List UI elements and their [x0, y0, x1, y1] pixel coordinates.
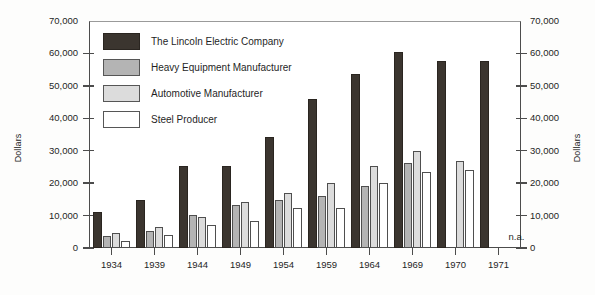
x-tick-label: 1970	[434, 259, 478, 270]
x-tick	[498, 248, 499, 255]
x-tick	[111, 248, 112, 255]
white-swatch	[103, 111, 140, 128]
bar	[250, 221, 259, 248]
y-tick-label-left: 30,000	[49, 145, 78, 156]
y-tick-label-left: 60,000	[49, 47, 78, 58]
bar	[456, 161, 465, 248]
x-tick	[154, 248, 155, 255]
bar	[422, 172, 431, 248]
bar	[327, 183, 336, 248]
bar	[394, 52, 403, 248]
y-tick-label-left: 50,000	[49, 80, 78, 91]
bar	[265, 137, 274, 248]
legend-item-label: The Lincoln Electric Company	[151, 36, 284, 47]
y-tick-label-right: 20,000	[530, 177, 559, 188]
bar	[207, 225, 216, 248]
bar	[222, 166, 231, 248]
bar	[155, 227, 164, 248]
x-tick-label: 1969	[391, 259, 435, 270]
x-tick-label: 1954	[262, 259, 306, 270]
legend-item: Heavy Equipment Manufacturer	[103, 54, 292, 80]
y-tick-label-left: 70,000	[49, 15, 78, 26]
bar	[370, 166, 379, 248]
bar	[318, 196, 327, 248]
bar	[336, 208, 345, 248]
bar	[136, 200, 145, 248]
y-tick-label-right: 70,000	[530, 15, 559, 26]
bar	[179, 166, 188, 248]
x-tick-label: 1959	[305, 259, 349, 270]
medium-gray-swatch	[103, 59, 140, 76]
light-gray-swatch	[103, 85, 140, 102]
na-annotation: n.a.	[509, 231, 525, 242]
x-tick	[412, 248, 413, 255]
y-tick-label-left: 10,000	[49, 210, 78, 221]
x-tick-label: 1964	[348, 259, 392, 270]
y-tick-label-left: 40,000	[49, 112, 78, 123]
bar	[232, 205, 241, 248]
x-tick	[326, 248, 327, 255]
x-tick	[197, 248, 198, 255]
bar	[93, 212, 102, 248]
y-tick-label-right: 0	[530, 242, 535, 253]
bar	[351, 74, 360, 248]
x-tick	[455, 248, 456, 255]
legend-item: Steel Producer	[103, 106, 292, 132]
x-tick-label: 1971	[477, 259, 521, 270]
bar	[275, 200, 284, 248]
y-tick-label-right: 50,000	[530, 80, 559, 91]
bar	[404, 163, 413, 248]
bar	[146, 231, 155, 249]
x-tick-label: 1944	[176, 259, 220, 270]
bar	[379, 183, 388, 248]
bar-chart: Dollars Dollars 70,00060,00050,00040,000…	[0, 0, 595, 295]
x-tick-label: 1939	[133, 259, 177, 270]
y-axis-title-left: Dollars	[13, 118, 23, 178]
bar	[413, 151, 422, 248]
y-tick-label-right: 60,000	[530, 47, 559, 58]
bar	[103, 236, 112, 248]
legend-item: Automotive Manufacturer	[103, 80, 292, 106]
bar	[112, 233, 121, 248]
x-tick	[283, 248, 284, 255]
y-axis-title-right: Dollars	[572, 118, 582, 178]
bar	[189, 215, 198, 248]
x-tick	[240, 248, 241, 255]
bar	[437, 61, 446, 248]
legend-item: The Lincoln Electric Company	[103, 28, 292, 54]
bar	[198, 217, 207, 248]
legend-item-label: Automotive Manufacturer	[151, 88, 263, 99]
bar	[164, 235, 173, 248]
bar	[361, 186, 370, 248]
bar	[241, 202, 250, 248]
dark-swatch	[103, 33, 140, 50]
bar	[480, 61, 489, 248]
legend: The Lincoln Electric CompanyHeavy Equipm…	[103, 28, 292, 132]
bar	[308, 99, 317, 248]
y-tick-label-left: 0	[73, 242, 78, 253]
bar	[284, 193, 293, 248]
y-tick-label-left: 20,000	[49, 177, 78, 188]
bar	[121, 241, 130, 248]
x-tick-label: 1934	[90, 259, 134, 270]
bar	[293, 208, 302, 248]
y-tick-label-right: 40,000	[530, 112, 559, 123]
y-tick-label-right: 30,000	[530, 145, 559, 156]
bar	[465, 170, 474, 248]
y-tick-label-right: 10,000	[530, 210, 559, 221]
legend-item-label: Steel Producer	[151, 114, 217, 125]
x-tick	[369, 248, 370, 255]
legend-item-label: Heavy Equipment Manufacturer	[151, 62, 292, 73]
x-tick-label: 1949	[219, 259, 263, 270]
